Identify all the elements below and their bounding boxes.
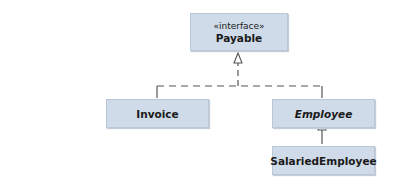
class-name: Payable bbox=[216, 32, 262, 44]
class-employee: Employee bbox=[272, 99, 375, 128]
class-name: Employee bbox=[295, 108, 353, 120]
class-name: Invoice bbox=[136, 108, 178, 120]
class-payable: «interface» Payable bbox=[190, 13, 288, 51]
stereotype-label: «interface» bbox=[213, 21, 264, 31]
class-invoice: Invoice bbox=[106, 99, 209, 128]
class-name: SalariedEmployee bbox=[270, 155, 376, 167]
class-salaried-employee: SalariedEmployee bbox=[272, 146, 375, 175]
